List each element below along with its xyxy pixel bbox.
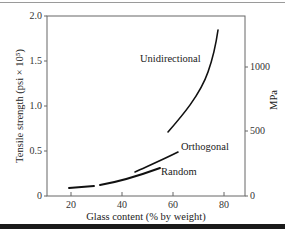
left-y-axis: 0 0.5 1.0 1.5 2.0 Tensile strength (psi …: [14, 10, 47, 201]
bottom-border: [0, 224, 285, 229]
y-axis-label: Tensile strength (psi × 10⁵): [14, 49, 26, 163]
y-right-tick-label: 1000: [250, 61, 270, 72]
y-tick-label: 0.5: [30, 145, 43, 156]
x-axis: 20 40 60 80 Glass content (% by weight): [66, 192, 229, 223]
y-right-tick-label: 500: [250, 125, 265, 136]
label-unidirectional: Unidirectional: [140, 53, 201, 64]
y-right-tick-label: 0: [250, 190, 255, 201]
x-tick-label: 20: [66, 199, 76, 210]
chart: 0 0.5 1.0 1.5 2.0 Tensile strength (psi …: [0, 0, 285, 229]
y-right-axis-label: MPa: [268, 90, 279, 110]
x-tick-label: 40: [117, 199, 127, 210]
curve-unidirectional: [168, 30, 218, 132]
y-tick-label: 1.0: [30, 100, 43, 111]
curve-random: [69, 168, 160, 188]
y-tick-label: 1.5: [30, 55, 43, 66]
right-y-axis: 0 500 1000 MPa: [245, 61, 279, 201]
x-axis-label: Glass content (% by weight): [86, 211, 206, 223]
label-random: Random: [161, 166, 197, 177]
x-tick-label: 60: [168, 199, 178, 210]
label-orthogonal: Orthogonal: [181, 141, 229, 152]
y-tick-label: 2.0: [30, 10, 43, 21]
x-tick-label: 80: [219, 199, 229, 210]
y-tick-label: 0: [37, 190, 42, 201]
